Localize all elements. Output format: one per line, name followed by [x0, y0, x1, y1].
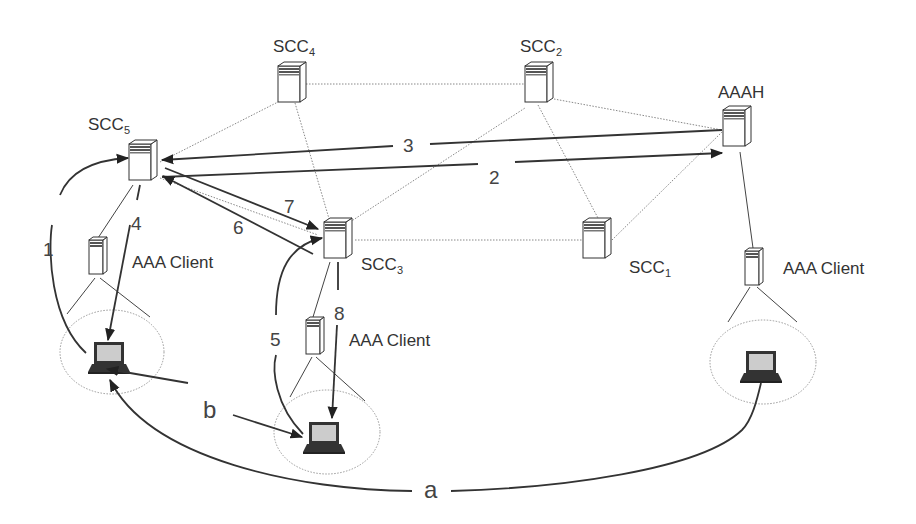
- aaah-client-link: [740, 152, 753, 248]
- step-1-label: 1: [43, 239, 54, 260]
- scc5-client-link: [98, 185, 133, 238]
- left-client-server-icon: [89, 237, 107, 274]
- backbone-links: [160, 84, 722, 240]
- step-3-label: 3: [403, 135, 414, 156]
- step-7-label: 7: [284, 196, 295, 217]
- message-arrows: [51, 130, 761, 491]
- coverage-lines: [67, 278, 797, 401]
- scc3-client-link: [313, 262, 330, 317]
- step-6-label: 6: [233, 217, 244, 238]
- step-8-label: 8: [334, 303, 345, 324]
- right-laptop-icon: [740, 351, 782, 383]
- step-2-label: 2: [489, 167, 500, 188]
- scc1-label: SCC1: [629, 258, 671, 279]
- mid-client-label: AAA Client: [349, 331, 431, 350]
- step-5-label: 5: [270, 329, 281, 350]
- mid-client-server-icon: [306, 317, 324, 354]
- scc4-server-icon: [278, 62, 306, 102]
- scc3-label: SCC3: [361, 255, 403, 276]
- right-client-label: AAA Client: [783, 259, 865, 278]
- scc4-label: SCC4: [273, 37, 315, 58]
- step-a-label: a: [424, 476, 438, 503]
- step-4-label: 4: [131, 213, 142, 234]
- scc5-server-icon: [129, 140, 157, 180]
- scc1-server-icon: [583, 218, 611, 258]
- scc2-server-icon: [525, 62, 553, 102]
- step-b-label: b: [203, 396, 216, 423]
- scc3-server-icon: [324, 218, 352, 258]
- mid-laptop-icon: [303, 422, 345, 454]
- aaah-server-icon: [723, 106, 751, 146]
- left-client-label: AAA Client: [132, 253, 214, 272]
- scc5-label: SCC5: [88, 115, 130, 136]
- aaah-label: AAAH: [718, 83, 764, 102]
- right-client-server-icon: [745, 248, 763, 285]
- scc2-label: SCC2: [520, 37, 562, 58]
- network-diagram: SCC5 SCC4 SCC2 AAAH SCC3 SCC1 AAA Client…: [0, 0, 916, 524]
